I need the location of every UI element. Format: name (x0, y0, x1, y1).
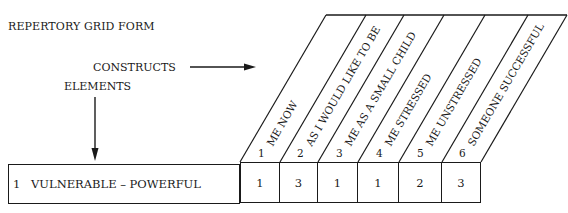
column-number-6: 6 (459, 147, 466, 159)
rating-cell-4[interactable]: 1 (358, 162, 399, 203)
right-arrow-icon (190, 64, 256, 71)
rating-cell-3[interactable]: 1 (318, 162, 358, 203)
element-row-label: 1VULNERABLE – POWERFUL (8, 164, 240, 204)
column-number-4: 4 (376, 147, 383, 159)
rating-cell-2[interactable]: 3 (280, 162, 318, 203)
rating-cell-5[interactable]: 2 (399, 162, 442, 203)
rating-cell-6[interactable]: 3 (442, 162, 481, 203)
column-number-5: 5 (417, 147, 424, 159)
row-construct-text: VULNERABLE – POWERFUL (31, 177, 201, 191)
row-number: 1 (13, 165, 31, 203)
column-number-3: 3 (336, 147, 343, 159)
rating-cell-1[interactable]: 1 (240, 162, 280, 203)
column-number-1: 1 (258, 147, 265, 159)
column-number-2: 2 (297, 147, 304, 159)
down-arrow-icon (92, 97, 99, 161)
